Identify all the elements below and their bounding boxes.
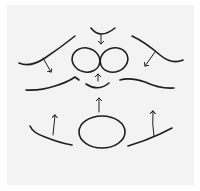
- bottom-oval: [79, 116, 125, 148]
- bottom-left-line: [30, 115, 72, 145]
- sketch-diagram: [0, 0, 200, 191]
- right-lower-curve: [120, 79, 174, 88]
- left-lower-curve: [26, 77, 79, 90]
- top-cup: [91, 28, 115, 44]
- middle-cup: [86, 74, 109, 88]
- left-upper-curve: [19, 36, 75, 72]
- center-ovals: [69, 44, 131, 76]
- bottom-right-line: [128, 111, 172, 146]
- right-upper-curve: [132, 36, 183, 66]
